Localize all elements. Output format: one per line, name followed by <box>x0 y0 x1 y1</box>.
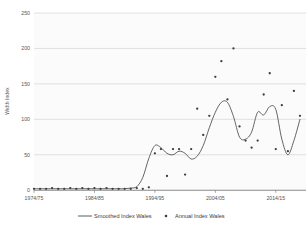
scatter-point <box>208 115 210 117</box>
scatter-point <box>69 187 71 189</box>
scatter-point <box>275 148 277 150</box>
x-tick-label: 1994/95 <box>146 195 165 201</box>
scatter-point <box>142 188 144 190</box>
scatter-point <box>39 188 41 190</box>
y-tick-label: 50 <box>24 152 30 158</box>
x-tick-label: 1974/75 <box>25 195 44 201</box>
scatter-point <box>33 188 35 190</box>
scatter-point <box>190 148 192 150</box>
scatter-point <box>293 90 295 92</box>
scatter-point <box>148 186 150 188</box>
chart-legend: Smoothed Index Wales Annual Index Wales <box>78 213 225 219</box>
scatter-point <box>232 47 234 49</box>
scatter-point <box>51 187 53 189</box>
scatter-point <box>87 188 89 190</box>
scatter-point <box>124 188 126 190</box>
x-tick-label: 2004/05 <box>206 195 225 201</box>
scatter-point <box>238 125 240 127</box>
scatter-point <box>220 60 222 62</box>
plot-area-background <box>34 13 306 190</box>
scatter-point <box>178 148 180 150</box>
x-tick-label: 1984/85 <box>85 195 104 201</box>
scatter-point <box>269 72 271 74</box>
y-tick-label: 100 <box>21 116 30 122</box>
y-axis-title: Width Index <box>4 87 10 115</box>
scatter-point <box>105 187 107 189</box>
scatter-point <box>63 188 65 190</box>
scatter-point <box>154 152 156 154</box>
scatter-point <box>93 187 95 189</box>
y-axis-tick-labels: 050100150200250 <box>21 10 30 193</box>
scatter-point <box>117 188 119 190</box>
scatter-point <box>196 108 198 110</box>
scatter-point <box>226 98 228 100</box>
scatter-point <box>99 188 101 190</box>
y-tick-label: 150 <box>21 81 30 87</box>
legend-label-smoothed: Smoothed Index Wales <box>94 213 152 219</box>
scatter-point <box>172 148 174 150</box>
scatter-point <box>111 188 113 190</box>
scatter-point <box>136 187 138 189</box>
scatter-point <box>214 76 216 78</box>
y-tick-label: 200 <box>21 45 30 51</box>
scatter-point <box>299 115 301 117</box>
chart-svg: 050100150200250 1974/751984/851994/95200… <box>0 0 308 232</box>
scatter-point <box>75 188 77 190</box>
scatter-point <box>130 188 132 190</box>
scatter-point <box>57 188 59 190</box>
scatter-point <box>81 187 83 189</box>
x-axis-tick-labels: 1974/751984/851994/952004/052014/15 <box>25 195 286 201</box>
y-tick-label: 0 <box>27 187 30 193</box>
chart-container: 050100150200250 1974/751984/851994/95200… <box>0 0 308 232</box>
legend-dot-swatch-icon <box>165 215 168 218</box>
scatter-point <box>166 175 168 177</box>
scatter-point <box>160 148 162 150</box>
scatter-point <box>250 147 252 149</box>
scatter-point <box>184 173 186 175</box>
y-tick-label: 250 <box>21 10 30 16</box>
scatter-point <box>244 139 246 141</box>
scatter-point <box>287 150 289 152</box>
scatter-point <box>263 93 265 95</box>
legend-label-annual: Annual Index Wales <box>175 213 225 219</box>
scatter-point <box>281 104 283 106</box>
x-tick-label: 2014/15 <box>266 195 285 201</box>
scatter-point <box>45 188 47 190</box>
scatter-point <box>256 139 258 141</box>
scatter-point <box>202 134 204 136</box>
